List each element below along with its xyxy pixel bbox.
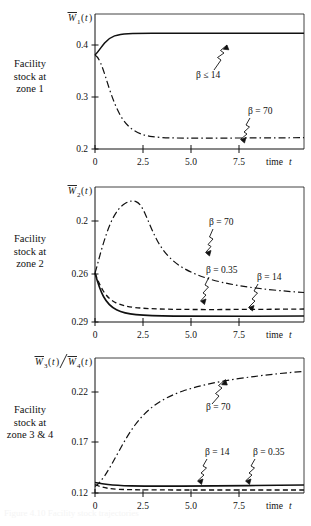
annotation-beta-le-14-group: β ≤ 14 — [196, 45, 229, 80]
figure-container: Facility stock at zone 1 W 1 ( t ) — [0, 0, 311, 526]
annotation-label: β = 0.35 — [253, 447, 285, 457]
x-tick-label: 7.5 — [233, 157, 245, 167]
curve-beta-70 — [95, 55, 304, 138]
y-axis-label-zone-3-4: W 3 ( t ) W 4 ( t ) — [35, 354, 93, 370]
x-axis-ticks: 0 2.5 5.0 7.5 — [93, 318, 246, 340]
y-tick-label: 0.4 — [76, 40, 88, 50]
svg-text:): ) — [89, 186, 92, 197]
svg-text:t: t — [52, 357, 55, 367]
svg-text:): ) — [89, 13, 92, 24]
svg-text:(: ( — [48, 357, 51, 368]
svg-text:t: t — [85, 186, 88, 196]
annotation-label: β = 14 — [205, 447, 230, 457]
annotation-beta-035-group: β = 0.35 — [246, 447, 285, 485]
y-tick-label: 0.26 — [71, 269, 88, 279]
y-tick-label: 0.3 — [76, 92, 88, 102]
svg-text:W: W — [68, 186, 77, 196]
figure-caption: Figure 4.10 Facility stock trajectories — [4, 508, 307, 519]
x-axis-ticks: 0 2.5 5.0 7.5 — [93, 145, 246, 167]
annotation-label: β = 70 — [248, 106, 273, 116]
svg-text:t: t — [289, 330, 292, 340]
curve-beta-70 — [95, 371, 304, 486]
curve-beta-le-14 — [95, 33, 304, 55]
y-axis-label-zone-1: W 1 ( t ) — [68, 13, 93, 27]
x-tick-label: 2.5 — [137, 157, 149, 167]
x-axis-label-zone-1: time t — [266, 157, 292, 167]
annotation-beta-70-group: β = 70 — [206, 217, 234, 256]
svg-text:W: W — [68, 357, 77, 367]
svg-text:): ) — [56, 357, 59, 368]
svg-text:): ) — [89, 357, 92, 368]
svg-text:t: t — [289, 157, 292, 167]
svg-text:(: ( — [81, 357, 84, 368]
y-tick-label: 0.29 — [71, 317, 88, 327]
chart-panel-zone-2: Facility stock at zone 2 W 2 ( t ) — [0, 181, 311, 353]
plot-area-zone-2: W 2 ( t ) 0.2 0.26 0.29 — [0, 181, 311, 353]
x-tick-label: 0 — [93, 157, 98, 167]
annotation-label: β = 70 — [206, 402, 231, 412]
svg-text:W: W — [68, 13, 77, 23]
y-axis-ticks: 0.22 0.17 0.12 — [71, 387, 98, 498]
svg-text:(: ( — [81, 186, 84, 197]
x-tick-label: 5.0 — [185, 330, 197, 340]
x-tick-label: 2.5 — [137, 330, 149, 340]
y-tick-label: 0.17 — [71, 437, 88, 447]
y-tick-label: 0.22 — [71, 387, 88, 397]
svg-text:time: time — [266, 330, 283, 340]
x-tick-label: 5.0 — [185, 157, 197, 167]
y-tick-label: 0.2 — [76, 216, 88, 226]
x-tick-label: 0 — [93, 330, 98, 340]
annotation-label: β ≤ 14 — [196, 70, 221, 80]
svg-text:t: t — [85, 13, 88, 23]
svg-text:time: time — [266, 157, 283, 167]
annotation-beta-14-group: β = 14 — [198, 447, 230, 485]
x-tick-label: 7.5 — [233, 330, 245, 340]
svg-text:t: t — [85, 357, 88, 367]
y-tick-label: 0.2 — [76, 144, 88, 154]
axis-frame — [95, 187, 304, 322]
chart-panel-zone-1: Facility stock at zone 1 W 1 ( t ) — [0, 8, 311, 180]
chart-panel-zone-3-4: Facility stock at zone 3 & 4 W 3 ( t ) W… — [0, 352, 311, 524]
plot-area-zone-3-4: W 3 ( t ) W 4 ( t ) — [0, 352, 311, 524]
y-axis-label-zone-2: W 2 ( t ) — [68, 186, 93, 200]
y-tick-label: 0.12 — [71, 488, 88, 498]
svg-text:(: ( — [81, 13, 84, 24]
annotation-beta-14-group: β = 14 — [249, 272, 282, 311]
annotation-label: β = 14 — [257, 272, 282, 282]
annotation-label: β = 70 — [209, 217, 234, 227]
plot-area-zone-1: W 1 ( t ) 0.4 0.3 0.2 — [0, 8, 311, 180]
x-axis-label-zone-2: time t — [266, 330, 292, 340]
svg-text:W: W — [35, 357, 44, 367]
y-axis-ticks: 0.2 0.26 0.29 — [71, 216, 98, 327]
annotation-label: β = 0.35 — [206, 265, 238, 275]
axis-frame — [95, 358, 304, 493]
